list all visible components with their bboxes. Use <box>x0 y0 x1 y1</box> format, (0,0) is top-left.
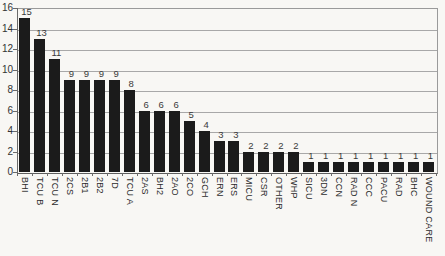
x-tick-mark <box>256 173 257 176</box>
bar-value-label: 1 <box>420 151 442 161</box>
x-tick-mark <box>212 173 213 176</box>
x-tick-mark <box>241 173 242 176</box>
bar <box>393 162 404 172</box>
x-tick-mark <box>436 173 437 176</box>
x-category-label: TCU B <box>35 177 44 206</box>
bar <box>94 80 105 172</box>
bar <box>363 162 374 172</box>
x-tick-mark <box>271 173 272 176</box>
x-tick-mark <box>406 173 407 176</box>
bar <box>243 152 254 173</box>
x-category-label: ERS <box>229 177 238 196</box>
x-category-label: CSR <box>259 177 268 197</box>
x-tick-mark <box>182 173 183 176</box>
bar <box>34 39 45 172</box>
bar <box>318 162 329 172</box>
bar-value-label: 4 <box>195 120 217 130</box>
x-tick-mark <box>316 173 317 176</box>
bar <box>109 80 120 172</box>
bar-value-label: 9 <box>105 69 127 79</box>
y-tick-label: 4 <box>0 125 13 136</box>
x-tick-mark <box>107 173 108 176</box>
y-tick-mark <box>13 29 18 30</box>
bar-value-label: 3 <box>225 130 247 140</box>
x-category-label: WHP <box>289 177 298 199</box>
x-tick-mark <box>421 173 422 176</box>
x-category-label: 2CO <box>185 177 194 196</box>
x-category-label: WOUND CARE <box>424 177 433 243</box>
bar <box>348 162 359 172</box>
gridline <box>18 30 437 31</box>
x-category-label: PACU <box>379 177 388 203</box>
bar <box>228 141 239 172</box>
bar <box>199 131 210 172</box>
x-tick-mark <box>361 173 362 176</box>
y-tick-mark <box>13 111 18 112</box>
y-tick-label: 2 <box>0 146 13 157</box>
bar <box>139 111 150 173</box>
x-category-label: 2B1 <box>80 177 89 194</box>
x-category-label: RAD <box>394 177 403 197</box>
x-tick-mark <box>167 173 168 176</box>
x-category-label: BHI <box>20 177 29 193</box>
y-tick-mark <box>13 131 18 132</box>
bar <box>184 121 195 172</box>
bar-value-label: 8 <box>120 79 142 89</box>
x-category-label: GCH <box>200 177 209 198</box>
x-tick-mark <box>331 173 332 176</box>
bar <box>154 111 165 173</box>
bar <box>124 90 135 172</box>
y-tick-label: 16 <box>0 2 13 13</box>
x-tick-mark <box>286 173 287 176</box>
y-tick-label: 12 <box>0 43 13 54</box>
x-category-label: ERN <box>215 177 224 197</box>
bar <box>273 152 284 173</box>
x-tick-mark <box>376 173 377 176</box>
y-tick-label: 10 <box>0 64 13 75</box>
y-tick-label: 0 <box>0 166 13 177</box>
x-tick-mark <box>17 173 18 176</box>
bar <box>19 18 30 172</box>
x-category-label: RAD N <box>349 177 358 207</box>
y-tick-mark <box>13 90 18 91</box>
x-category-label: 7D <box>110 177 119 189</box>
y-tick-mark <box>13 152 18 153</box>
x-tick-mark <box>137 173 138 176</box>
y-tick-mark <box>13 70 18 71</box>
bar-value-label: 15 <box>15 7 37 17</box>
bar-value-label: 13 <box>30 28 52 38</box>
bar-value-label: 2 <box>285 141 307 151</box>
bar <box>49 59 60 172</box>
bar-value-label: 6 <box>165 100 187 110</box>
x-category-label: MICU <box>244 177 253 201</box>
x-tick-mark <box>152 173 153 176</box>
x-category-label: TCU N <box>50 177 59 206</box>
bar <box>423 162 434 172</box>
x-tick-mark <box>227 173 228 176</box>
y-tick-mark <box>13 49 18 50</box>
bar <box>288 152 299 173</box>
x-tick-mark <box>391 173 392 176</box>
bar <box>214 141 225 172</box>
x-tick-mark <box>197 173 198 176</box>
x-tick-mark <box>77 173 78 176</box>
bar <box>333 162 344 172</box>
x-tick-mark <box>32 173 33 176</box>
bar <box>408 162 419 172</box>
bar-value-label: 5 <box>180 110 202 120</box>
x-category-label: 3DN <box>319 177 328 196</box>
bar-chart-figure: 0246810121416 BHITCU BTCU N2CS2B12B27DTC… <box>0 0 445 256</box>
x-tick-mark <box>346 173 347 176</box>
y-tick-label: 6 <box>0 105 13 116</box>
x-category-label: SICU <box>304 177 313 200</box>
x-tick-mark <box>62 173 63 176</box>
x-category-label: BH2 <box>155 177 164 195</box>
y-tick-label: 8 <box>0 84 13 95</box>
x-category-label: 2CS <box>65 177 74 195</box>
y-tick-label: 14 <box>0 23 13 34</box>
bar <box>169 111 180 173</box>
bar-value-label: 11 <box>45 48 67 58</box>
x-tick-mark <box>92 173 93 176</box>
x-category-label: CCN <box>334 177 343 197</box>
bar <box>258 152 269 173</box>
